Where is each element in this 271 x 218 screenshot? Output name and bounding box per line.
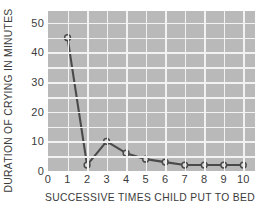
y-axis-title-text: DURATION OF CRYING IN MINUTES bbox=[4, 8, 15, 192]
gridline-vertical bbox=[107, 11, 109, 171]
gridline-vertical bbox=[185, 11, 187, 171]
gridline-vertical bbox=[204, 11, 206, 171]
gridline-vertical bbox=[126, 11, 128, 171]
gridline-vertical bbox=[68, 11, 70, 171]
x-axis-title: SUCCESSIVE TIMES CHILD PUT TO BED bbox=[36, 192, 264, 203]
y-axis-tick-labels: 01020304050 bbox=[18, 0, 44, 218]
gridline-vertical bbox=[87, 11, 89, 171]
y-axis-tick-label: 50 bbox=[22, 17, 44, 29]
x-axis-tick-label: 10 bbox=[231, 173, 255, 185]
x-axis-tick-labels: 012345678910 bbox=[48, 173, 255, 189]
gridline-vertical bbox=[224, 11, 226, 171]
gridline-vertical bbox=[165, 11, 167, 171]
y-axis-tick-label: 40 bbox=[22, 46, 44, 58]
series-polyline bbox=[68, 38, 244, 165]
gridline-vertical bbox=[146, 11, 148, 171]
gridline-vertical bbox=[243, 11, 245, 171]
y-axis-tick-label: 10 bbox=[22, 135, 44, 147]
y-axis-tick-label: 30 bbox=[22, 76, 44, 88]
crying-duration-line-chart: DURATION OF CRYING IN MINUTES 0102030405… bbox=[0, 0, 271, 218]
y-axis-tick-label: 20 bbox=[22, 106, 44, 118]
plot-area bbox=[48, 11, 255, 171]
y-axis-title: DURATION OF CRYING IN MINUTES bbox=[0, 0, 18, 200]
